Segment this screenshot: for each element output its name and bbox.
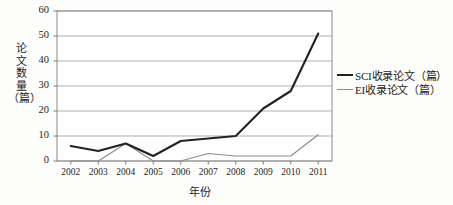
legend-line-icon-ei xyxy=(337,89,353,90)
chart-legend: SCI收录论文（篇） EI收录论文（篇） xyxy=(337,68,453,96)
legend-label-ei: EI收录论文（篇） xyxy=(355,81,441,97)
y-tick-label-30: 30 xyxy=(27,79,49,90)
legend-line-icon-sci xyxy=(337,74,353,76)
y-tick-label-50: 50 xyxy=(27,29,49,40)
y-tick-label-10: 10 xyxy=(27,129,49,140)
x-axis-title: 年份 xyxy=(170,183,230,199)
chart-container: 论 文 数 量 （篇） 0 10 20 30 40 50 60 2002 200… xyxy=(0,0,453,205)
legend-item-ei: EI收录论文（篇） xyxy=(337,82,453,96)
x-tick-label-2011: 2011 xyxy=(301,167,335,177)
y-tick-label-0: 0 xyxy=(27,154,49,165)
y-tick-label-20: 20 xyxy=(27,104,49,115)
legend-item-sci: SCI收录论文（篇） xyxy=(337,68,453,82)
y-tick-label-40: 40 xyxy=(27,54,49,65)
y-tick-label-60: 60 xyxy=(27,4,49,15)
